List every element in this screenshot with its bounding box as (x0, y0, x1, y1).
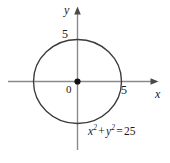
circle-graph-figure: y x 5 5 0 x2+y2=25 (0, 0, 170, 163)
coordinate-plane-svg (0, 0, 170, 163)
y-axis-arrowhead (74, 7, 81, 15)
x-axis-label: x (155, 88, 160, 100)
origin-label: 0 (66, 84, 72, 95)
equation-plus-operator: + (97, 125, 106, 137)
equation-equals-operator: = (115, 125, 124, 137)
equation-value: 25 (124, 125, 136, 137)
equation-annotation: x2+y2=25 (88, 126, 136, 138)
y-axis-tick-label-5: 5 (62, 28, 68, 40)
x-axis-arrowhead (151, 78, 159, 85)
x-axis-tick-label-5: 5 (121, 84, 127, 96)
origin-point-marker (74, 78, 80, 84)
y-axis-label: y (64, 4, 69, 16)
